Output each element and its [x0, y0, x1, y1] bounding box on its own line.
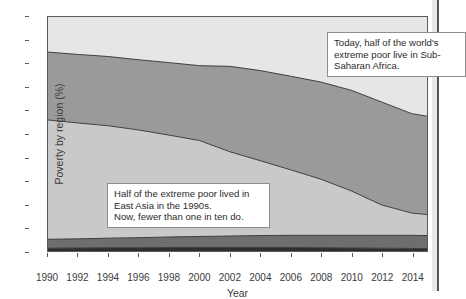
x-tick-mark [77, 253, 78, 257]
annotation-sub-saharan-africa: Today, half of the world's extreme poor … [327, 32, 466, 77]
x-tick-mark [169, 253, 170, 257]
x-tick-mark [291, 253, 292, 257]
y-tick-mark [25, 134, 29, 135]
x-tick-mark [108, 253, 109, 257]
x-tick-label: 2006 [280, 272, 302, 283]
x-tick-mark [138, 253, 139, 257]
y-tick-mark [25, 158, 29, 159]
x-tick-label: 2008 [310, 272, 332, 283]
x-tick-label: 2000 [188, 272, 210, 283]
x-tick-mark [260, 253, 261, 257]
y-tick-mark [25, 181, 29, 182]
x-tick-label: 1992 [66, 272, 88, 283]
x-tick-label: 1996 [127, 272, 149, 283]
x-tick-mark [199, 253, 200, 257]
y-axis-label: Poverty by region (%) [53, 44, 65, 224]
x-tick-label: 2004 [249, 272, 271, 283]
x-axis-label: Year [47, 287, 428, 299]
x-tick-label: 2002 [219, 272, 241, 283]
y-tick-mark [25, 228, 29, 229]
y-tick-mark [25, 87, 29, 88]
y-tick-mark [25, 252, 29, 253]
plot-area: Poverty by region (%) Year 0102030405060… [47, 16, 428, 252]
x-tick-mark [352, 253, 353, 257]
x-tick-label: 2010 [341, 272, 363, 283]
y-tick-mark [25, 16, 29, 17]
y-tick-mark [25, 40, 29, 41]
y-tick-mark [25, 63, 29, 64]
x-tick-label: 2014 [402, 272, 424, 283]
y-tick-mark [25, 110, 29, 111]
x-tick-label: 2012 [371, 272, 393, 283]
x-tick-mark [321, 253, 322, 257]
x-tick-label: 1994 [97, 272, 119, 283]
x-tick-mark [413, 253, 414, 257]
x-tick-mark [230, 253, 231, 257]
y-tick-mark [25, 205, 29, 206]
x-tick-mark [47, 253, 48, 257]
x-tick-label: 1998 [158, 272, 180, 283]
x-tick-label: 1990 [36, 272, 58, 283]
x-tick-mark [382, 253, 383, 257]
annotation-east-asia: Half of the extreme poor lived in East A… [107, 183, 270, 228]
